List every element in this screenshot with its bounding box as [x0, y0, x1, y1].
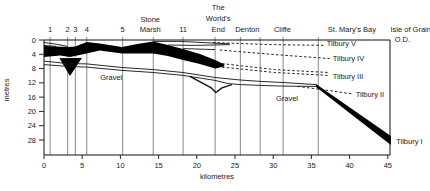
x-tick-label: 5 — [80, 161, 84, 170]
x-tick-label: 0 — [42, 161, 46, 170]
y-tick-label: 12 — [28, 78, 36, 87]
site-label: 11 — [179, 25, 187, 34]
site-label: 3 — [73, 25, 77, 34]
site-label: Denton — [235, 25, 259, 34]
y-tick-label: 0 — [32, 36, 36, 45]
gravel-label: Gravel — [276, 94, 298, 103]
bed-label: Tilbury II — [356, 90, 384, 99]
site-label: World's — [206, 14, 231, 23]
y-tick-label: 24 — [28, 121, 36, 130]
x-tick-label: 15 — [154, 161, 162, 170]
bed-label: Tilbury IV — [333, 54, 364, 63]
site-label: 1 — [48, 25, 52, 34]
tilbury-III-line-a — [222, 64, 328, 73]
x-tick-label: 10 — [116, 161, 124, 170]
y-tick-label: 8 — [32, 64, 36, 73]
od-label: O.D. — [395, 35, 410, 44]
y-tick-label: 4 — [32, 50, 36, 59]
x-tick-label: 35 — [307, 161, 315, 170]
bed-label: Tilbury III — [333, 72, 364, 81]
x-tick-label: 40 — [345, 161, 353, 170]
site-label: Marsh — [140, 25, 161, 34]
x-tick-label: 45 — [384, 161, 392, 170]
figure: 0481216202428051015202530354045metreskil… — [0, 0, 430, 191]
upper-right-line-3 — [183, 49, 215, 50]
bed-label: Tilbury V — [327, 39, 356, 48]
site-label: St. Mary's Bay — [328, 25, 376, 34]
site-label: End — [212, 25, 225, 34]
gravel-surface-2 — [44, 65, 316, 87]
x-tick-label: 30 — [269, 161, 277, 170]
gravel-label: Gravel — [100, 73, 122, 82]
y-tick-label: 28 — [28, 136, 36, 145]
site-label: Cliffe — [274, 25, 291, 34]
site-label: Stone — [140, 15, 160, 24]
cross-section-plot: 0481216202428051015202530354045metreskil… — [0, 0, 430, 191]
y-axis-title: metres — [2, 78, 11, 101]
upper-right-line-2 — [168, 45, 230, 46]
site-label: Isle of Grain — [391, 25, 430, 34]
y-tick-label: 20 — [28, 107, 36, 116]
site-label: The — [212, 3, 225, 12]
x-tick-label: 25 — [231, 161, 239, 170]
site-label: 5 — [121, 25, 125, 34]
x-tick-label: 20 — [193, 161, 201, 170]
x-axis-title: kilometres — [200, 172, 234, 181]
bed-label: Tilbury I — [396, 137, 422, 146]
site-label: 2 — [66, 25, 70, 34]
tilbury-IV-line — [220, 50, 330, 59]
y-tick-label: 16 — [28, 93, 36, 102]
site-label: 4 — [85, 25, 89, 34]
